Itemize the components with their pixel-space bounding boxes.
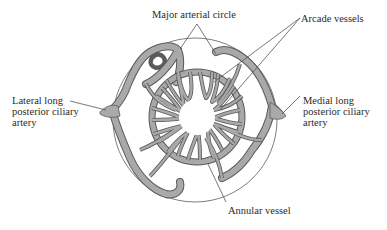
label-lateral-long-posterior-ciliary-artery: Lateral long posterior ciliary artery [12, 95, 79, 128]
pupil [179, 99, 215, 135]
iris-vasculature-diagram: Major arterial circle Arcade vessels Lat… [0, 0, 387, 230]
label-line-1: Lateral long [12, 95, 79, 106]
label-medial-long-posterior-ciliary-artery: Medial long posterior ciliary artery [303, 95, 370, 128]
leader-annular-vessel [208, 164, 226, 202]
label-line-2: posterior ciliary [12, 106, 79, 117]
lateral-artery-stub [100, 105, 120, 117]
leader-medial [282, 96, 300, 114]
label-line-1: Medial long [303, 95, 370, 106]
label-text: Arcade vessels [301, 13, 364, 24]
medial-artery-stub [270, 102, 286, 119]
label-line-2: posterior ciliary [303, 106, 370, 117]
label-line-3: artery [303, 117, 370, 128]
label-arcade-vessels: Arcade vessels [301, 13, 364, 24]
label-major-arterial-circle: Major arterial circle [152, 9, 236, 20]
label-line-3: artery [12, 117, 79, 128]
label-text: Annular vessel [228, 205, 291, 216]
label-annular-vessel: Annular vessel [228, 205, 291, 216]
label-text: Major arterial circle [152, 9, 236, 20]
